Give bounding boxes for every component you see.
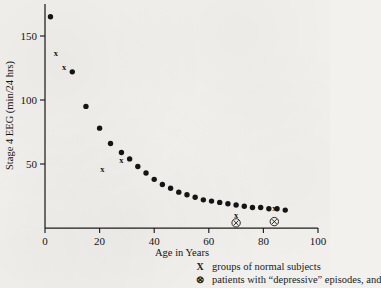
data-point-dot bbox=[48, 14, 53, 19]
data-point-dot bbox=[70, 69, 75, 74]
filled-circle-series bbox=[48, 14, 288, 213]
x-tick-label: 60 bbox=[203, 235, 215, 247]
data-point-dot bbox=[233, 202, 238, 207]
y-axis-title: Stage 4 EEG (min/24 hrs) bbox=[4, 60, 16, 170]
x-axis-title: Age in Years bbox=[155, 247, 209, 258]
data-point-dot bbox=[258, 205, 263, 210]
legend-item-normal-subjects: X groups of normal subjects bbox=[195, 261, 381, 273]
data-point-dot bbox=[168, 186, 173, 191]
data-point-x: x bbox=[62, 62, 67, 72]
data-point-dot bbox=[127, 156, 132, 161]
data-point-x: x bbox=[119, 155, 124, 165]
data-point-dot bbox=[242, 204, 247, 209]
data-point-dot bbox=[160, 182, 165, 187]
data-point-dot bbox=[176, 189, 181, 194]
data-point-dot bbox=[209, 198, 214, 203]
data-point-x: x bbox=[272, 203, 277, 213]
data-point-dot bbox=[135, 164, 140, 169]
legend-label-depressive-patients: patients with “depressive” episodes, and bbox=[212, 274, 381, 286]
data-point-x: x bbox=[100, 164, 105, 174]
x-marker-series: xxxxxx bbox=[54, 48, 277, 221]
legend-item-depressive-patients: ⊗ patients with “depressive” episodes, a… bbox=[195, 274, 381, 286]
x-tick-label: 0 bbox=[42, 235, 48, 247]
x-tick-label: 20 bbox=[94, 235, 106, 247]
y-tick-group: 50100150 bbox=[21, 30, 46, 170]
y-tick-label: 100 bbox=[21, 94, 38, 106]
y-tick-label: 150 bbox=[21, 30, 38, 42]
data-point-dot bbox=[225, 201, 230, 206]
data-point-dot bbox=[217, 200, 222, 205]
legend: X groups of normal subjects ⊗ patients w… bbox=[195, 261, 381, 286]
data-point-dot bbox=[201, 197, 206, 202]
data-point-dot bbox=[108, 141, 113, 146]
axes-group bbox=[45, 4, 318, 228]
data-point-dot bbox=[184, 192, 189, 197]
data-point-dot bbox=[83, 104, 88, 109]
data-point-dot bbox=[143, 170, 148, 175]
data-point-dot bbox=[152, 177, 157, 182]
x-tick-label: 80 bbox=[258, 235, 270, 247]
circled-x-marker-icon: ⊗ bbox=[195, 274, 205, 286]
data-point-circled-x bbox=[270, 217, 278, 225]
circled-x-series bbox=[232, 217, 279, 227]
data-point-dot bbox=[283, 207, 288, 212]
data-point-dot bbox=[266, 206, 271, 211]
y-tick-label: 50 bbox=[26, 158, 38, 170]
data-point-dot bbox=[97, 125, 102, 130]
x-tick-label: 100 bbox=[310, 235, 327, 247]
x-tick-group: 020406080100 bbox=[42, 228, 327, 247]
data-point-x: x bbox=[54, 48, 59, 58]
legend-label-normal-subjects: groups of normal subjects bbox=[212, 261, 321, 273]
data-point-dot bbox=[250, 205, 255, 210]
data-point-dot bbox=[192, 195, 197, 200]
x-marker-icon: X bbox=[195, 261, 205, 273]
x-tick-label: 40 bbox=[149, 235, 161, 247]
